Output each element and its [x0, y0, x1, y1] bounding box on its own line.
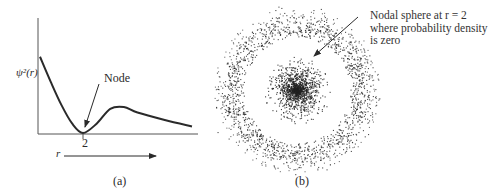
cloud-dot	[265, 36, 266, 37]
cloud-dot	[354, 114, 355, 115]
cloud-dot	[376, 102, 377, 103]
cloud-dot	[308, 102, 309, 103]
cloud-dot	[305, 157, 306, 158]
cloud-dot	[233, 106, 234, 107]
cloud-dot	[276, 87, 277, 88]
cloud-dot	[225, 112, 226, 113]
cloud-dot	[334, 153, 335, 154]
cloud-dot	[351, 53, 352, 54]
cloud-dot	[332, 146, 333, 147]
cloud-dot	[305, 32, 306, 33]
cloud-dot	[257, 143, 258, 144]
cloud-dot	[238, 107, 239, 108]
cloud-dot	[308, 30, 309, 31]
cloud-dot	[289, 97, 290, 98]
cloud-dot	[257, 46, 258, 47]
cloud-dot	[242, 68, 243, 69]
cloud-dot	[347, 46, 348, 47]
cloud-dot	[304, 159, 305, 160]
cloud-dot	[281, 109, 282, 110]
cloud-dot	[297, 164, 298, 165]
cloud-dot	[319, 82, 320, 83]
cloud-dot	[351, 63, 352, 64]
cloud-dot	[309, 83, 310, 84]
cloud-dot	[281, 29, 282, 30]
cloud-dot	[311, 19, 312, 20]
cloud-dot	[294, 72, 295, 73]
cloud-dot	[306, 107, 307, 108]
cloud-dot	[320, 22, 321, 23]
cloud-dot	[290, 17, 291, 18]
cloud-dot	[353, 111, 354, 112]
cloud-dot	[258, 130, 259, 131]
cloud-dot	[345, 152, 346, 153]
cloud-dot	[311, 73, 312, 74]
cloud-dot	[356, 53, 357, 54]
cloud-dot	[369, 120, 370, 121]
cloud-dot	[358, 117, 359, 118]
cloud-dot	[347, 58, 348, 59]
cloud-dot	[231, 40, 232, 41]
cloud-dot	[257, 150, 258, 151]
cloud-dot	[309, 103, 310, 104]
cloud-dot	[280, 75, 281, 76]
cloud-dot	[292, 155, 293, 156]
cloud-dot	[276, 150, 277, 151]
cloud-dot	[298, 27, 299, 28]
cloud-dot	[324, 138, 325, 139]
cloud-dot	[266, 41, 267, 42]
cloud-dot	[346, 41, 347, 42]
cloud-dot	[329, 151, 330, 152]
cloud-dot	[278, 26, 279, 27]
cloud-dot	[320, 78, 321, 79]
cloud-dot	[237, 50, 238, 51]
cloud-dot	[345, 67, 346, 68]
cloud-dot	[266, 31, 267, 32]
cloud-dot	[349, 65, 350, 66]
cloud-dot	[239, 74, 240, 75]
cloud-dot	[358, 132, 359, 133]
cloud-dot	[298, 96, 299, 97]
cloud-dot	[370, 86, 371, 87]
cloud-dot	[359, 68, 360, 69]
cloud-dot	[366, 75, 367, 76]
cloud-dot	[259, 146, 260, 147]
cloud-dot	[316, 90, 317, 91]
cloud-dot	[236, 58, 237, 59]
cloud-dot	[340, 51, 341, 52]
cloud-dot	[237, 64, 238, 65]
cloud-dot	[296, 89, 297, 90]
cloud-dot	[294, 57, 295, 58]
cloud-dot	[286, 111, 287, 112]
cloud-dot	[276, 141, 277, 142]
cloud-dot	[273, 26, 274, 27]
cloud-dot	[374, 91, 375, 92]
cloud-dot	[271, 31, 272, 32]
cloud-dot	[328, 31, 329, 32]
cloud-dot	[351, 34, 352, 35]
cloud-dot	[239, 87, 240, 88]
cloud-dot	[254, 47, 255, 48]
cloud-dot	[216, 108, 217, 109]
cloud-dot	[231, 59, 232, 60]
cloud-dot	[293, 89, 294, 90]
cloud-dot	[339, 153, 340, 154]
cloud-dot	[289, 31, 290, 32]
cloud-dot	[237, 90, 238, 91]
cloud-dot	[239, 45, 240, 46]
cloud-dot	[300, 98, 301, 99]
cloud-dot	[375, 71, 376, 72]
cloud-dot	[349, 68, 350, 69]
cloud-dot	[335, 52, 336, 53]
cloud-dot	[336, 44, 337, 45]
cloud-dot	[238, 42, 239, 43]
cloud-dot	[379, 99, 380, 100]
cloud-dot	[347, 144, 348, 145]
cloud-dot	[222, 113, 223, 114]
cloud-dot	[272, 89, 273, 90]
cloud-dot	[328, 29, 329, 30]
cloud-dot	[295, 88, 296, 89]
cloud-dot	[259, 46, 260, 47]
cloud-dot	[234, 73, 235, 74]
cloud-dot	[309, 35, 310, 36]
